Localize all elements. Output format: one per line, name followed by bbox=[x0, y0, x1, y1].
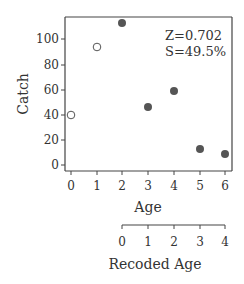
x-tick-label: 1 bbox=[93, 179, 101, 193]
y-ticks: 0 20 40 60 80 100 bbox=[36, 32, 65, 172]
y-tick-label: 80 bbox=[44, 58, 59, 72]
data-point-open bbox=[67, 111, 75, 119]
secondary-x-axis: 0 1 2 3 4 Recoded Age bbox=[108, 225, 229, 272]
y-tick-label: 20 bbox=[44, 133, 59, 147]
annotation-s: S=49.5% bbox=[165, 44, 226, 59]
y-axis-label: Catch bbox=[15, 73, 31, 115]
annotation-z: Z=0.702 bbox=[165, 28, 222, 43]
x-tick-label: 6 bbox=[221, 179, 229, 193]
x-tick-label: 2 bbox=[118, 179, 126, 193]
x2-tick-label: 4 bbox=[221, 235, 229, 249]
y-tick-label: 100 bbox=[36, 32, 59, 46]
y-tick-label: 60 bbox=[44, 83, 59, 97]
x2-tick-label: 1 bbox=[144, 235, 152, 249]
data-point-filled bbox=[144, 103, 152, 111]
x-axis-label: Age bbox=[133, 199, 161, 215]
secondary-x-axis-label: Recoded Age bbox=[108, 256, 201, 272]
x2-tick-label: 2 bbox=[170, 235, 178, 249]
data-point-filled bbox=[118, 19, 126, 27]
x-tick-label: 0 bbox=[67, 179, 75, 193]
data-point-filled bbox=[221, 150, 229, 158]
data-point-filled bbox=[170, 87, 178, 95]
x2-tick-label: 3 bbox=[196, 235, 204, 249]
chart-canvas: 0 20 40 60 80 100 0 1 2 3 4 5 6 Age Catc… bbox=[0, 0, 244, 284]
x-tick-label: 4 bbox=[170, 179, 178, 193]
x-tick-label: 5 bbox=[196, 179, 204, 193]
y-tick-label: 40 bbox=[44, 108, 59, 122]
data-point-filled bbox=[196, 145, 204, 153]
x2-tick-label: 0 bbox=[118, 235, 126, 249]
x-tick-label: 3 bbox=[144, 179, 152, 193]
data-point-open bbox=[93, 43, 101, 51]
x-ticks: 0 1 2 3 4 5 6 bbox=[67, 171, 229, 193]
y-tick-label: 0 bbox=[51, 158, 59, 172]
